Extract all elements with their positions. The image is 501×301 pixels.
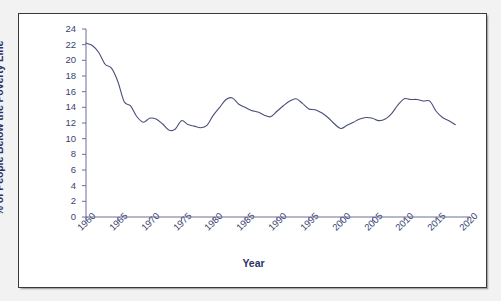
axes-group bbox=[82, 29, 470, 221]
x-axis-ticks bbox=[86, 217, 468, 221]
chart-frame: % of People Below the Poverty Line Year … bbox=[18, 13, 487, 288]
figure-canvas: % of People Below the Poverty Line Year … bbox=[0, 0, 501, 301]
chart-svg bbox=[19, 14, 488, 289]
plot-area: % of People Below the Poverty Line Year … bbox=[19, 14, 486, 287]
poverty-rate-line bbox=[86, 43, 455, 131]
y-axis-label: % of People Below the Poverty Line bbox=[0, 28, 7, 228]
y-axis-ticks bbox=[82, 29, 86, 217]
